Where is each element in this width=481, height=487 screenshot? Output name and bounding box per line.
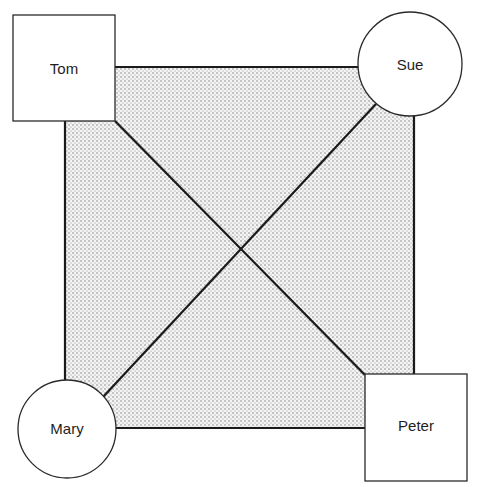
- node-label-tom: Tom: [50, 60, 78, 77]
- node-label-peter: Peter: [398, 417, 434, 434]
- node-sue: Sue: [358, 12, 462, 116]
- node-peter: Peter: [365, 374, 467, 481]
- node-tom: Tom: [13, 15, 115, 121]
- network-diagram: Tom Sue Mary Peter: [0, 0, 481, 487]
- node-label-mary: Mary: [50, 420, 84, 437]
- node-mary: Mary: [18, 380, 116, 478]
- node-label-sue: Sue: [397, 56, 424, 73]
